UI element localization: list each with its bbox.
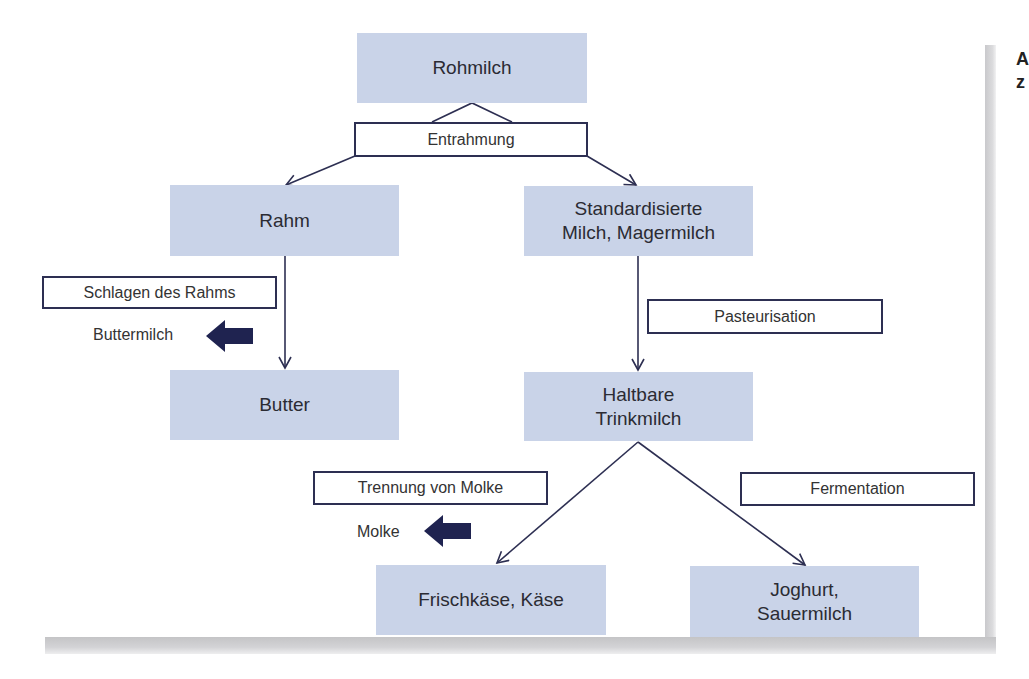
process-pasteurisation: Pasteurisation <box>647 299 883 334</box>
process-pasteurisation-label: Pasteurisation <box>714 308 815 326</box>
node-rahm: Rahm <box>170 185 399 256</box>
node-joghurt: Joghurt, Sauermilch <box>690 566 919 637</box>
node-frischkaese-label: Frischkäse, Käse <box>418 588 564 612</box>
left-arrow-icon <box>424 514 472 548</box>
node-butter-label: Butter <box>259 393 310 417</box>
process-fermentation: Fermentation <box>740 472 975 506</box>
node-haltbare-trinkmilch: Haltbare Trinkmilch <box>524 372 753 441</box>
byproduct-buttermilch: Buttermilch <box>93 326 173 344</box>
left-arrow-icon <box>206 319 254 353</box>
cropped-edge-text-2: z <box>1016 72 1025 93</box>
node-frischkaese: Frischkäse, Käse <box>376 565 606 635</box>
node-joghurt-line2: Sauermilch <box>757 602 852 626</box>
node-joghurt-line1: Joghurt, <box>770 578 839 602</box>
node-standardisierte-milch: Standardisierte Milch, Magermilch <box>524 186 753 256</box>
byproduct-molke: Molke <box>357 523 400 541</box>
node-rahm-label: Rahm <box>259 209 310 233</box>
node-rohmilch-label: Rohmilch <box>432 56 511 80</box>
process-schlagen-des-rahms: Schlagen des Rahms <box>42 276 277 309</box>
node-haltbare-line1: Haltbare <box>603 383 675 407</box>
process-trennung-label: Trennung von Molke <box>358 479 503 497</box>
process-entrahmung: Entrahmung <box>354 122 588 157</box>
process-trennung-von-molke: Trennung von Molke <box>313 471 548 505</box>
node-haltbare-line2: Trinkmilch <box>596 407 682 431</box>
node-butter: Butter <box>170 370 399 440</box>
process-schlagen-label: Schlagen des Rahms <box>83 284 235 302</box>
node-standardisierte-line2: Milch, Magermilch <box>562 221 715 245</box>
node-rohmilch: Rohmilch <box>357 33 587 103</box>
process-entrahmung-label: Entrahmung <box>427 131 514 149</box>
node-standardisierte-line1: Standardisierte <box>575 197 703 221</box>
cropped-edge-text-1: A <box>1016 49 1029 70</box>
process-fermentation-label: Fermentation <box>810 480 904 498</box>
